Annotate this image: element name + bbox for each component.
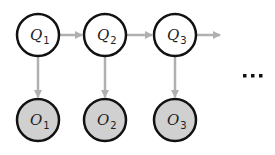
ellipsis-icon [243, 74, 263, 78]
node-o2: O2 [84, 99, 126, 141]
node-q1: Q1 [17, 14, 59, 56]
node-o1: O1 [17, 99, 59, 141]
emission-edges [38, 57, 175, 97]
node-o3: O3 [154, 99, 196, 141]
hmm-diagram: Q1 Q2 Q3 O1 O2 O3 [0, 0, 275, 155]
node-q3: Q3 [154, 14, 196, 56]
node-q2: Q2 [84, 14, 126, 56]
